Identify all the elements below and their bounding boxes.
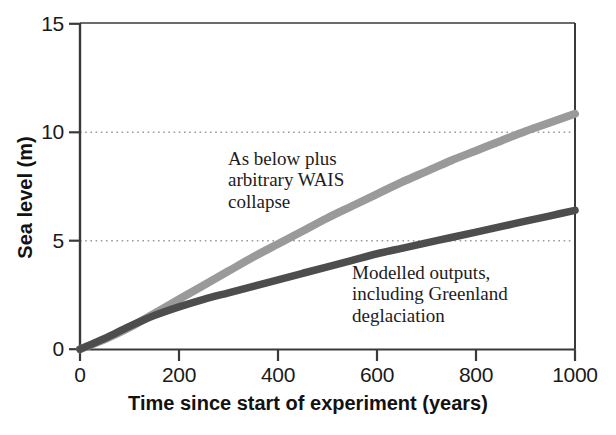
x-tick-label-800: 800 [459,363,493,387]
y-tick-label-15: 15 [34,12,64,36]
y-tick-label-5: 5 [34,229,64,253]
x-tick-label-0: 0 [74,363,85,387]
x-tick-label-400: 400 [261,363,295,387]
y-axis-ticks [69,24,80,349]
x-tick-label-600: 600 [360,363,394,387]
upper-annotation: As below plus arbitrary WAIS collapse [228,148,344,212]
x-tick-label-200: 200 [162,363,196,387]
x-tick-label-1000: 1000 [552,363,598,387]
x-axis-ticks [80,350,575,362]
plot-area [0,0,616,435]
y-tick-label-0: 0 [34,337,64,361]
lower-annotation: Modelled outputs, including Greenland de… [352,262,508,326]
x-axis-title: Time since start of experiment (years) [0,392,616,415]
sea-level-chart-figure: 15 10 5 0 0 200 400 600 800 1000 Sea lev… [0,0,616,435]
y-tick-label-10: 10 [34,120,64,144]
y-axis-title: Sea level (m) [14,98,37,298]
